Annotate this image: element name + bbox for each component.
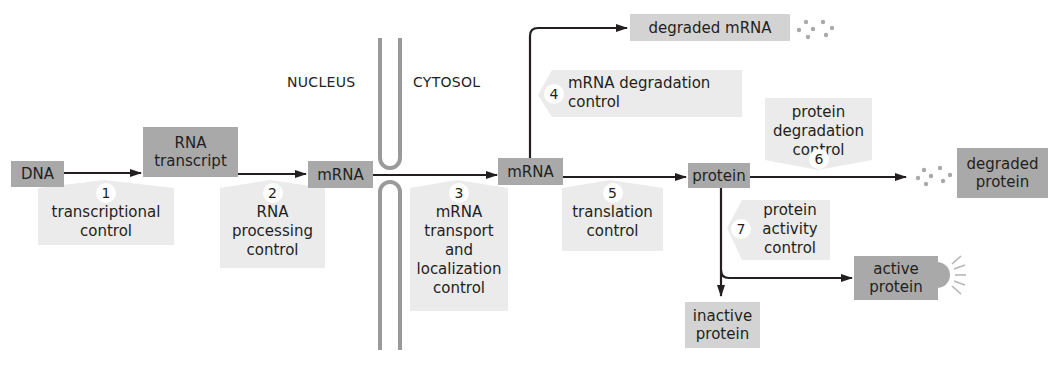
membrane-upper <box>380 38 400 168</box>
control-5-line2: control <box>587 222 639 240</box>
control-2: 2 RNA processing control <box>220 183 325 260</box>
control-5-number: 5 <box>603 183 623 203</box>
control-3-line2: transport <box>424 222 493 240</box>
node-protein: protein <box>688 163 750 188</box>
control-4-line1: mRNA degradation <box>568 74 710 92</box>
node-degraded-mrna: degraded mRNA <box>630 14 790 41</box>
control-6-number-wrap: 6 <box>808 149 830 169</box>
node-degraded-protein-line1: degraded <box>967 155 1039 173</box>
node-inactive-protein-line1: inactive <box>693 307 752 325</box>
control-7-number-wrap: 7 <box>730 219 752 239</box>
control-3: 3 mRNA transport and localization contro… <box>408 183 510 298</box>
control-3-number: 3 <box>449 183 469 203</box>
control-2-number: 2 <box>263 183 283 203</box>
control-6-line1: protein <box>792 103 845 121</box>
control-6-line2: degradation <box>773 122 864 140</box>
degraded-mrna-dots <box>797 20 834 39</box>
control-6-number: 6 <box>809 149 829 169</box>
control-4-number-wrap: 4 <box>543 84 565 104</box>
control-3-line1: mRNA <box>436 203 483 221</box>
control-2-line2: processing <box>232 222 313 240</box>
control-7-line3: control <box>764 239 816 257</box>
node-active-protein-line1: active <box>873 260 919 278</box>
node-degraded-protein-line2: protein <box>976 173 1029 191</box>
control-5: 5 translation control <box>562 183 663 241</box>
node-mrna-cytosol: mRNA <box>498 158 563 185</box>
node-inactive-protein-line2: protein <box>696 325 749 343</box>
active-site-bump <box>937 262 950 288</box>
control-5-line1: translation <box>572 203 653 221</box>
node-degraded-protein: degraded protein <box>957 148 1048 198</box>
control-2-line3: control <box>247 241 299 259</box>
node-inactive-protein: inactive protein <box>685 302 760 348</box>
nuclear-membrane <box>380 38 400 350</box>
control-1-number: 1 <box>96 183 116 203</box>
membrane-lower <box>380 182 400 350</box>
node-active-protein: active protein <box>854 256 938 300</box>
node-active-protein-line2: protein <box>869 278 922 296</box>
nucleus-label: NUCLEUS <box>287 74 355 90</box>
control-4: mRNA degradation control <box>568 74 710 112</box>
control-3-line5: control <box>433 279 485 297</box>
node-rna-transcript-line2: transcript <box>154 152 227 170</box>
control-7-number: 7 <box>731 219 751 239</box>
control-1-line2: control <box>80 222 132 240</box>
arrow-protein-to-active <box>721 270 852 278</box>
cytosol-label: CYTOSOL <box>413 74 480 90</box>
control-4-line2: control <box>568 93 620 111</box>
control-2-line1: RNA <box>257 203 289 221</box>
control-7-line1: protein <box>763 201 816 219</box>
control-1-line1: transcriptional <box>52 203 161 221</box>
control-3-line4: localization <box>417 260 502 278</box>
control-7: protein activity control <box>752 201 828 258</box>
gene-expression-control-diagram: NUCLEUS CYTOSOL DNA RNA transcript mRNA … <box>0 0 1058 365</box>
degraded-protein-dots <box>916 166 952 186</box>
activity-rays <box>952 256 966 294</box>
control-1: 1 transcriptional control <box>38 183 174 241</box>
control-4-number: 4 <box>544 84 564 104</box>
node-rna-transcript: RNA transcript <box>143 127 238 177</box>
control-7-line2: activity <box>762 220 817 238</box>
node-rna-transcript-line1: RNA <box>175 134 207 152</box>
control-3-line3: and <box>445 241 473 259</box>
